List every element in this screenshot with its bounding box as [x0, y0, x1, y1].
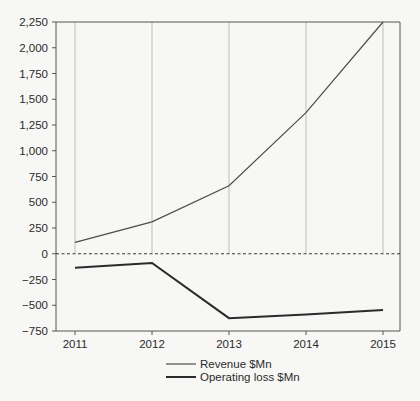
- y-tick-label-10: 1,750: [19, 68, 48, 80]
- y-tick-label-6: 750: [29, 171, 48, 183]
- y-tick-label-5: 500: [29, 196, 48, 208]
- y-tick-label-0: −750: [22, 325, 48, 337]
- x-tick-label-2013: 2013: [216, 338, 242, 350]
- y-tick-label-3: 0: [42, 248, 48, 260]
- x-tick-label-2015: 2015: [370, 338, 396, 350]
- chart-container: −750−500−25002505007501,0001,2501,5001,7…: [0, 0, 420, 401]
- y-tick-label-12: 2,250: [19, 16, 48, 28]
- y-tick-label-1: −500: [22, 299, 48, 311]
- y-tick-label-2: −250: [22, 274, 48, 286]
- legend-label-operating-loss: Operating loss $Mn: [200, 371, 300, 383]
- legend-label-revenue: Revenue $Mn: [200, 358, 272, 370]
- y-tick-label-8: 1,250: [19, 119, 48, 131]
- y-tick-label-11: 2,000: [19, 42, 48, 54]
- y-tick-label-9: 1,500: [19, 93, 48, 105]
- line-chart: −750−500−25002505007501,0001,2501,5001,7…: [0, 0, 420, 401]
- x-tick-label-2014: 2014: [293, 338, 319, 350]
- y-tick-label-4: 250: [29, 222, 48, 234]
- x-tick-label-2011: 2011: [63, 338, 88, 350]
- x-tick-label-2012: 2012: [139, 338, 165, 350]
- y-tick-label-7: 1,000: [19, 145, 48, 157]
